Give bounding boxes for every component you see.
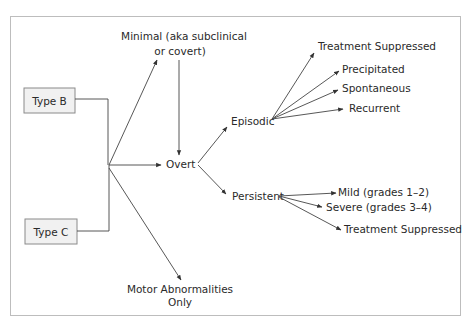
episodic-child-treatment-suppressed: Treatment Suppressed [317,40,436,52]
arrow-persistent-to-severe [279,196,322,207]
type-c-connector [77,165,109,231]
motor-label-line2: Only [168,296,192,308]
arrow-overt-to-persistent [198,165,226,194]
node-minimal: Minimal (aka subclinical or covert) [121,30,247,57]
type-b-label: Type B [31,95,67,107]
persistent-label: Persistent [232,190,284,202]
arrow-junction-to-minimal [109,60,157,165]
node-type-b: Type B [24,88,75,113]
episodic-label: Episodic [231,115,275,127]
episodic-child-recurrent: Recurrent [349,102,400,114]
type-c-label: Type C [33,226,69,238]
episodic-child-spontaneous: Spontaneous [342,82,411,94]
motor-label-line1: Motor Abnormalities [127,283,233,295]
arrow-persistent-to-mild [279,193,336,196]
overt-label: Overt [166,158,195,170]
episodic-child-precipitated: Precipitated [342,63,405,75]
arrow-junction-to-motor [109,168,181,280]
persistent-child-treatment-suppressed: Treatment Suppressed [343,223,462,235]
persistent-child-mild: Mild (grades 1–2) [338,186,429,198]
arrow-episodic-to-precipitated [272,71,339,119]
arrow-overt-to-episodic [198,127,227,163]
minimal-label-line2: or covert) [154,45,205,57]
persistent-child-severe: Severe (grades 3–4) [326,201,432,213]
classification-diagram: Type B Type C Minimal (aka subclinical o… [0,0,467,327]
minimal-label-line1: Minimal (aka subclinical [121,30,247,42]
arrow-episodic-to-treatment-suppressed [272,53,314,119]
diagram-frame [11,17,461,316]
node-type-c: Type C [25,219,77,244]
type-b-connector [75,99,108,165]
node-motor-abnormalities: Motor Abnormalities Only [127,283,233,308]
